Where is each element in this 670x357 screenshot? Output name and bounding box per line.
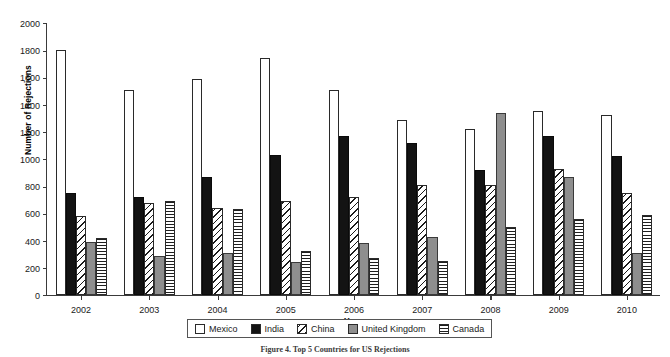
legend-label: India <box>265 324 285 334</box>
bar-canada[interactable] <box>369 258 379 295</box>
bar-group: 2006 <box>320 24 388 295</box>
bar-china[interactable] <box>212 208 222 295</box>
x-axis-tick-mark <box>422 295 423 300</box>
bar-united-kingdom[interactable] <box>86 242 96 295</box>
legend-label: United Kingdom <box>362 324 426 334</box>
bar-india[interactable] <box>270 155 280 295</box>
bar-united-kingdom[interactable] <box>359 243 369 295</box>
bar-mexico[interactable] <box>124 90 134 295</box>
y-axis-tick-label: 800 <box>25 181 40 193</box>
bar-group: 2009 <box>525 24 593 295</box>
legend-label: Canada <box>453 324 485 334</box>
chart-legend: MexicoIndiaChinaUnited KingdomCanada <box>187 319 492 338</box>
y-axis-tick-label: 0 <box>35 290 40 302</box>
bar-united-kingdom[interactable] <box>427 237 437 295</box>
y-axis-tick-label: 2000 <box>20 18 40 30</box>
bar-group: 2002 <box>47 24 115 295</box>
x-axis-tick-label: 2007 <box>392 305 452 315</box>
legend-swatch-icon <box>348 324 358 334</box>
bar-canada[interactable] <box>642 215 652 295</box>
bar-group-bars <box>388 24 456 295</box>
bar-group-bars <box>525 24 593 295</box>
legend-label: China <box>311 324 335 334</box>
bar-india[interactable] <box>339 136 349 295</box>
bar-group: 2003 <box>115 24 183 295</box>
bar-group: 2005 <box>252 24 320 295</box>
y-axis-tick: 1600 <box>7 72 47 84</box>
bar-india[interactable] <box>475 170 485 295</box>
bar-canada[interactable] <box>233 209 243 295</box>
bar-canada[interactable] <box>438 261 448 295</box>
bar-group-bars <box>252 24 320 295</box>
bar-canada[interactable] <box>301 251 311 295</box>
bar-united-kingdom[interactable] <box>291 262 301 295</box>
y-axis-tick-label: 1000 <box>20 154 40 166</box>
bar-china[interactable] <box>417 185 427 295</box>
bar-mexico[interactable] <box>192 79 202 295</box>
bar-mexico[interactable] <box>56 50 66 295</box>
figure-caption: Figure 4. Top 5 Countries for US Rejecti… <box>0 345 670 357</box>
x-axis-tick-label: 2010 <box>597 305 657 315</box>
legend-swatch-icon <box>439 324 449 334</box>
y-axis-tick: 2000 <box>7 18 47 30</box>
legend-item-mexico[interactable]: Mexico <box>195 324 238 334</box>
bar-china[interactable] <box>485 185 495 295</box>
bar-china[interactable] <box>76 216 86 295</box>
bar-mexico[interactable] <box>329 90 339 295</box>
legend-item-canada[interactable]: Canada <box>439 324 485 334</box>
bar-group: 2008 <box>456 24 524 295</box>
legend-swatch-icon <box>195 324 205 334</box>
bar-india[interactable] <box>66 193 76 295</box>
x-axis-tick-mark <box>559 295 560 300</box>
x-axis-tick-mark <box>354 295 355 300</box>
bar-china[interactable] <box>622 193 632 295</box>
bar-canada[interactable] <box>165 201 175 295</box>
y-axis-tick-mark <box>43 295 48 296</box>
y-axis-tick: 1400 <box>7 100 47 112</box>
bar-india[interactable] <box>134 197 144 295</box>
bar-china[interactable] <box>554 169 564 295</box>
legend-item-india[interactable]: India <box>251 324 285 334</box>
bar-india[interactable] <box>543 136 553 295</box>
bar-group: 2004 <box>183 24 251 295</box>
bar-china[interactable] <box>349 197 359 295</box>
y-axis-tick: 0 <box>7 290 47 302</box>
bar-india[interactable] <box>612 156 622 295</box>
bar-united-kingdom[interactable] <box>632 253 642 295</box>
bar-united-kingdom[interactable] <box>154 256 164 295</box>
bar-china[interactable] <box>281 201 291 295</box>
x-axis-tick-label: 2003 <box>119 305 179 315</box>
y-axis-tick: 400 <box>7 236 47 248</box>
bar-canada[interactable] <box>506 227 516 295</box>
y-axis-tick: 1200 <box>7 127 47 139</box>
bar-mexico[interactable] <box>601 115 611 295</box>
chart-page: Number of Rejections 0200400600800100012… <box>0 0 670 357</box>
legend-item-united-kingdom[interactable]: United Kingdom <box>348 324 426 334</box>
bar-mexico[interactable] <box>533 111 543 295</box>
y-axis-tick-label: 400 <box>25 236 40 248</box>
bar-group: 2010 <box>593 24 661 295</box>
bar-canada[interactable] <box>96 238 106 295</box>
x-axis-tick-label: 2002 <box>51 305 111 315</box>
bar-canada[interactable] <box>574 219 584 295</box>
bar-united-kingdom[interactable] <box>564 177 574 295</box>
y-axis-tick: 600 <box>7 208 47 220</box>
bar-group-bars <box>115 24 183 295</box>
bar-china[interactable] <box>144 203 154 295</box>
y-axis-tick: 800 <box>7 181 47 193</box>
plot-area: 0200400600800100012001400160018002000200… <box>47 24 660 295</box>
x-axis-tick-mark <box>81 295 82 300</box>
y-axis-tick-label: 600 <box>25 208 40 220</box>
bar-united-kingdom[interactable] <box>223 253 233 295</box>
bar-india[interactable] <box>407 143 417 295</box>
x-axis-tick-label: 2009 <box>529 305 589 315</box>
legend-item-china[interactable]: China <box>297 324 335 334</box>
bar-mexico[interactable] <box>465 129 475 295</box>
bar-mexico[interactable] <box>397 120 407 295</box>
x-axis-tick-mark <box>149 295 150 300</box>
y-axis-tick: 1000 <box>7 154 47 166</box>
bar-united-kingdom[interactable] <box>496 113 506 295</box>
bar-mexico[interactable] <box>260 58 270 295</box>
plot-frame: 0200400600800100012001400160018002000200… <box>46 24 660 296</box>
bar-india[interactable] <box>202 177 212 295</box>
